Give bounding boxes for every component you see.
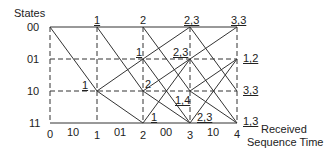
state-label-00: 00 [27, 22, 39, 33]
received-symbol-2: 01 [114, 127, 126, 138]
metric-t2-s00: 2 [140, 15, 146, 26]
metric-t2-s10: 2 [145, 79, 151, 90]
metric-t2-s01: 1 [136, 47, 142, 58]
metric-t4-s00: 3,3 [231, 15, 246, 26]
time-label-0: 0 [47, 129, 53, 140]
metric-t3-s10: 1,4 [175, 95, 190, 106]
metric-t3-s11: 2,3 [197, 112, 212, 123]
metric-t1-s00: 1 [94, 15, 100, 26]
metric-t4-s10: 3,3 [243, 85, 258, 96]
time-label-4: 4 [234, 129, 240, 140]
time-label-1: 1 [94, 130, 100, 141]
received-symbol-4: 10 [207, 127, 219, 138]
x-axis-title-received: Received [261, 124, 307, 135]
metric-t4-s01: 1,2 [243, 53, 258, 64]
received-symbol-1: 10 [67, 127, 79, 138]
state-label-01: 01 [27, 54, 39, 65]
x-axis-title-sequence-time: Sequence Time [247, 137, 323, 148]
metric-t3-s00: 2,3 [184, 15, 199, 26]
metric-t1-s10: 1 [82, 80, 88, 91]
y-axis-title: States [14, 8, 45, 19]
time-label-2: 2 [140, 130, 146, 141]
received-symbol-3: 00 [160, 127, 172, 138]
metric-t3-s01: 2,3 [173, 47, 188, 58]
state-label-10: 10 [27, 86, 39, 97]
state-label-11: 11 [29, 118, 40, 129]
metric-t4-s11: 1,3 [243, 116, 258, 127]
metric-t2-s11: 1 [151, 112, 157, 123]
trellis-diagram: States 00 01 10 11 0 1 2 3 4 10 01 00 10… [0, 0, 333, 156]
time-label-3: 3 [187, 130, 193, 141]
